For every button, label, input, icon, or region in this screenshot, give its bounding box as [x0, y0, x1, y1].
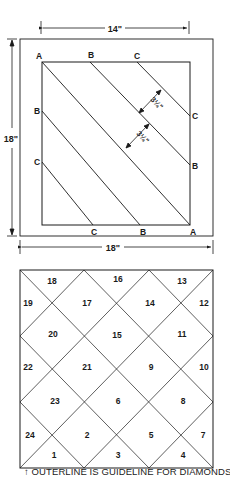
diamond-grid: 18 16 13 19 17 14 12 20 15 11 22 21 9 10… [20, 270, 213, 468]
piece-23: 23 [50, 396, 60, 406]
label-top-c: C [134, 51, 140, 61]
outer-height-label: 18" [4, 134, 18, 144]
strip-width-label-2: 3¼" [135, 129, 152, 146]
label-right-b: B [192, 161, 198, 171]
piece-1: 1 [52, 450, 57, 460]
piece-11: 11 [178, 329, 187, 339]
label-bottom-c: C [91, 227, 97, 237]
piece-10: 10 [199, 362, 209, 372]
piece-16: 16 [113, 274, 123, 284]
piece-24: 24 [25, 430, 35, 440]
diagram-caption: ↑ OUTERLINE IS GUIDELINE FOR DIAMONDS [24, 466, 230, 477]
diagonal-cut-lines [42, 62, 190, 225]
piece-13: 13 [177, 276, 187, 286]
piece-15: 15 [112, 330, 122, 340]
piece-12: 12 [199, 298, 209, 308]
piece-4: 4 [181, 450, 186, 460]
piece-18: 18 [47, 276, 57, 286]
piece-17: 17 [82, 298, 92, 308]
inner-width-label: 14" [108, 24, 122, 34]
piece-20: 20 [48, 329, 58, 339]
piece-14: 14 [145, 298, 155, 308]
label-bottom-b: B [140, 227, 146, 237]
piece-19: 19 [23, 298, 33, 308]
outer-square [20, 39, 213, 236]
piece-2: 2 [85, 430, 90, 440]
label-left-b: B [34, 106, 40, 116]
diamond-lines [20, 270, 213, 468]
piece-7: 7 [201, 430, 206, 440]
label-right-c: C [192, 111, 198, 121]
strip-width-label-1: 3¼" [149, 95, 166, 112]
label-top-a: A [36, 51, 42, 61]
arrow-up-icon: ↑ [24, 466, 29, 477]
caption-text: OUTERLINE IS GUIDELINE FOR DIAMONDS [32, 466, 230, 477]
label-bottom-a: A [190, 227, 196, 237]
piece-3: 3 [116, 450, 121, 460]
outer-width-label: 18" [106, 243, 120, 253]
piece-5: 5 [149, 430, 154, 440]
piece-21: 21 [82, 362, 92, 372]
label-left-c: C [34, 157, 40, 167]
top-diagram: 14" 18" [4, 21, 213, 254]
piece-8: 8 [181, 396, 186, 406]
piece-22: 22 [23, 362, 33, 372]
piece-6: 6 [116, 396, 121, 406]
label-top-b: B [88, 50, 94, 60]
piece-9: 9 [149, 362, 154, 372]
quilt-diagram: 14" 18" [0, 0, 230, 497]
